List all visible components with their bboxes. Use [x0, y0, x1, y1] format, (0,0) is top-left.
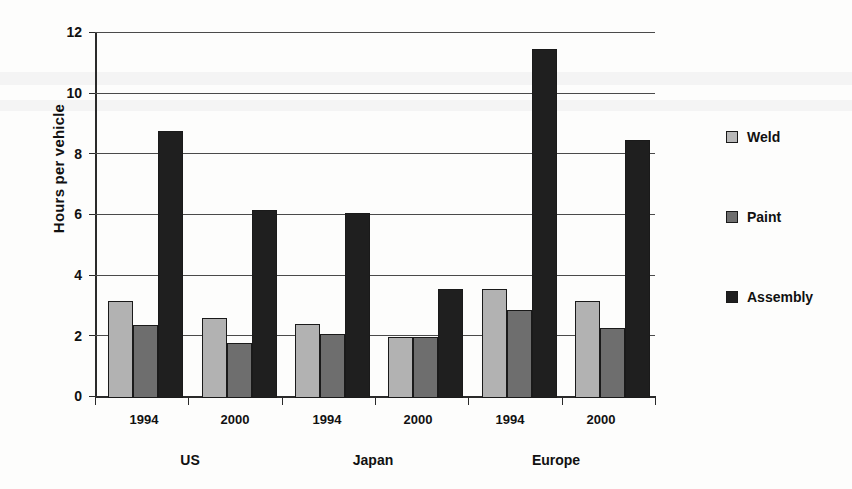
bar-paint-us-2000 [227, 343, 252, 398]
chart-legend: Weld Paint Assembly [726, 128, 846, 368]
paint-swatch-icon [726, 211, 738, 223]
x-category-tick [95, 396, 96, 405]
bar-chart: Hours per vehicle 12 10 8 6 4 2 0 1994 2… [0, 0, 852, 489]
bar-paint-europe-1994 [507, 310, 532, 398]
y-tick-label: 6 [48, 207, 82, 221]
legend-item-paint: Paint [726, 208, 846, 226]
bar-paint-japan-1994 [320, 334, 345, 398]
y-tick-10 [89, 93, 95, 94]
legend-item-assembly: Assembly [726, 288, 846, 306]
x-category-tick [375, 396, 376, 405]
bar-assembly-us-1994 [158, 131, 183, 398]
y-axis-line [95, 32, 97, 398]
gridline-12 [95, 32, 655, 33]
y-tick-label: 12 [48, 25, 82, 39]
bar-assembly-us-2000 [252, 210, 277, 398]
bar-weld-japan-1994 [295, 324, 320, 398]
bar-assembly-japan-2000 [438, 289, 463, 398]
x-region-label: US [120, 452, 260, 468]
assembly-swatch-icon [726, 291, 738, 303]
bar-weld-europe-1994 [482, 289, 507, 398]
x-category-tick [562, 396, 563, 405]
x-year-label: 2000 [556, 412, 646, 427]
legend-item-weld: Weld [726, 128, 846, 146]
y-tick-label: 0 [48, 389, 82, 403]
y-tick-6 [89, 214, 95, 215]
bar-weld-us-1994 [108, 301, 133, 398]
y-tick-8 [89, 153, 95, 154]
bar-paint-japan-2000 [413, 337, 438, 398]
gridline-10 [95, 93, 655, 94]
x-category-tick [282, 396, 283, 405]
bar-assembly-europe-2000 [625, 140, 650, 398]
plot-area [95, 32, 655, 398]
y-tick-label: 10 [48, 86, 82, 100]
bar-paint-europe-2000 [600, 328, 625, 398]
x-year-label: 2000 [190, 412, 280, 427]
x-region-label: Europe [486, 452, 626, 468]
y-tick-label: 2 [48, 329, 82, 343]
x-category-tick [655, 396, 656, 405]
x-year-label: 1994 [465, 412, 555, 427]
x-year-label: 1994 [99, 412, 189, 427]
bar-paint-us-1994 [133, 325, 158, 398]
x-category-tick [468, 396, 469, 405]
legend-label: Paint [747, 209, 781, 225]
y-tick-12 [89, 32, 95, 33]
y-tick-4 [89, 275, 95, 276]
bar-weld-us-2000 [202, 318, 227, 398]
bar-assembly-europe-1994 [532, 49, 557, 398]
x-region-label: Japan [303, 452, 443, 468]
x-year-label: 1994 [282, 412, 372, 427]
bar-assembly-japan-1994 [345, 213, 370, 398]
y-axis-tick-labels: 12 10 8 6 4 2 0 [48, 32, 82, 398]
x-category-tick [188, 396, 189, 405]
y-tick-label: 8 [48, 147, 82, 161]
y-tick-2 [89, 335, 95, 336]
legend-label: Assembly [747, 289, 813, 305]
x-year-label: 2000 [373, 412, 463, 427]
bar-weld-japan-2000 [388, 337, 413, 398]
y-tick-label: 4 [48, 268, 82, 282]
legend-label: Weld [747, 129, 780, 145]
weld-swatch-icon [726, 131, 738, 143]
bar-weld-europe-2000 [575, 301, 600, 398]
